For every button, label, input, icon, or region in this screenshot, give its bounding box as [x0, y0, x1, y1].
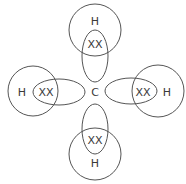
- right-electrons-label: XX: [135, 86, 151, 99]
- bottom-h-label: H: [91, 157, 99, 170]
- right-h-label: H: [163, 86, 171, 99]
- top-h-label: H: [91, 15, 99, 28]
- top-electrons-label: XX: [87, 38, 103, 51]
- left-h-label: H: [18, 86, 26, 99]
- left-electrons-label: XX: [38, 86, 54, 99]
- center-c-label: C: [91, 86, 99, 99]
- bottom-electrons-label: XX: [87, 134, 103, 147]
- methane-diagram: H XX H XX C XX H XX H: [0, 0, 186, 184]
